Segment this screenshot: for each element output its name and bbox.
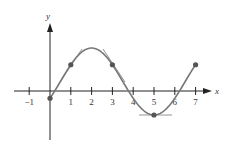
marked-points <box>47 62 198 117</box>
x-axis-label: x <box>214 86 219 96</box>
point-marker <box>47 96 52 101</box>
function-graph: −11234567 x y <box>0 0 232 148</box>
point-marker <box>193 62 198 67</box>
y-axis-label: y <box>45 11 50 21</box>
y-axis: y <box>45 11 53 140</box>
y-axis-arrow-icon <box>47 23 53 32</box>
x-tick-label: 5 <box>152 97 157 107</box>
x-tick-label: 1 <box>69 97 74 107</box>
point-marker <box>110 62 115 67</box>
x-tick-label: 7 <box>193 97 198 107</box>
x-axis-arrow-icon <box>203 88 212 94</box>
x-tick-label: −1 <box>24 97 34 107</box>
x-axis: −11234567 x <box>14 86 219 107</box>
point-marker <box>151 112 156 117</box>
x-tick-label: 3 <box>110 97 115 107</box>
x-tick-label: 2 <box>89 97 94 107</box>
point-marker <box>68 62 73 67</box>
